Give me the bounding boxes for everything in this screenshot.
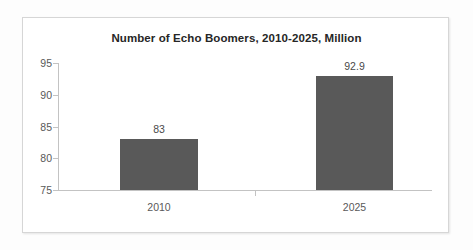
- data-label-2010: 83: [120, 124, 198, 135]
- chart-frame: Number of Echo Boomers, 2010-2025, Milli…: [22, 17, 449, 233]
- bar-2025[interactable]: [316, 76, 393, 190]
- y-axis-label-95: 95: [26, 58, 52, 69]
- x-axis-label-2010: 2010: [120, 202, 198, 213]
- chart-title: Number of Echo Boomers, 2010-2025, Milli…: [23, 32, 450, 44]
- bar-2010[interactable]: [120, 139, 198, 190]
- plot-area: 95 90 85 80 75 83 92.9 2010 2025: [58, 63, 432, 190]
- value-axis-line: [58, 63, 59, 190]
- value-tick-80: [53, 158, 58, 159]
- y-axis-labels: 95 90 85 80 75: [24, 63, 52, 190]
- data-label-2025: 92.9: [316, 61, 393, 72]
- y-axis-label-90: 90: [26, 90, 52, 101]
- category-axis-tick: [255, 190, 256, 196]
- y-axis-label-85: 85: [26, 122, 52, 133]
- value-tick-90: [53, 95, 58, 96]
- x-axis-label-2025: 2025: [316, 202, 393, 213]
- value-tick-85: [53, 127, 58, 128]
- category-axis-line: [58, 190, 432, 191]
- y-axis-label-80: 80: [26, 153, 52, 164]
- y-axis-label-75: 75: [26, 185, 52, 196]
- chart-canvas: Number of Echo Boomers, 2010-2025, Milli…: [0, 0, 473, 250]
- value-tick-75: [53, 190, 58, 191]
- value-tick-95: [53, 63, 58, 64]
